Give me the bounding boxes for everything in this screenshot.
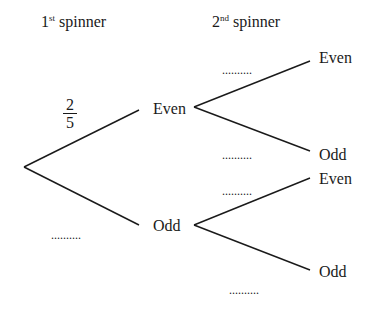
- outcome-odd-odd: Odd: [319, 264, 347, 280]
- header-first-spinner: 1st spinner: [41, 14, 106, 30]
- header-second-number: 2: [212, 13, 220, 30]
- branch-even-odd: [194, 107, 310, 151]
- outcome-even-odd: Odd: [319, 147, 347, 163]
- outcome-even-even: Even: [319, 50, 352, 66]
- tree-branches: [0, 0, 369, 315]
- probability-tree-diagram: 1st spinner 2nd spinner 2 5 Even Odd ...…: [0, 0, 369, 315]
- outcome-odd-even: Even: [319, 171, 352, 187]
- header-first-number: 1: [41, 13, 49, 30]
- header-second-spinner: 2nd spinner: [212, 14, 280, 30]
- outcome-first-even: Even: [153, 101, 186, 117]
- branch-first-odd: [24, 167, 139, 225]
- outcome-first-odd: Odd: [153, 218, 181, 234]
- probability-odd-even-blank[interactable]: ..........: [222, 185, 252, 197]
- probability-first-even: 2 5: [63, 97, 77, 130]
- branch-first-even: [24, 110, 139, 167]
- branch-even-even: [194, 61, 310, 107]
- branch-odd-even: [194, 178, 310, 225]
- header-second-suffix: nd: [220, 13, 229, 23]
- branch-odd-odd: [194, 225, 310, 270]
- header-second-text: spinner: [233, 13, 280, 30]
- fraction-numerator: 2: [63, 97, 77, 112]
- probability-first-odd-blank[interactable]: ..........: [51, 229, 81, 241]
- probability-odd-odd-blank[interactable]: ..........: [229, 284, 259, 296]
- fraction-denominator: 5: [63, 115, 77, 130]
- header-first-suffix: st: [49, 13, 55, 23]
- probability-even-even-blank[interactable]: ..........: [222, 64, 252, 76]
- header-first-text: spinner: [59, 13, 106, 30]
- probability-even-odd-blank[interactable]: ..........: [222, 149, 252, 161]
